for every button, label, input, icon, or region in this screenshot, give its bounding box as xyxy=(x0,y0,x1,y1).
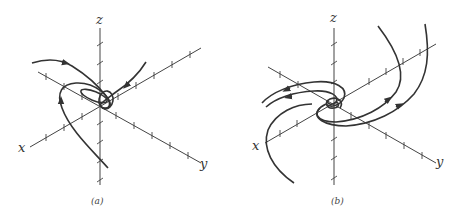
figure: z x y (a) xyxy=(0,0,456,217)
trajectories-b xyxy=(262,24,427,183)
y-axis-label: y xyxy=(435,154,444,169)
trajectories-a xyxy=(32,60,146,168)
caption-b: (b) xyxy=(331,196,344,206)
caption-a: (a) xyxy=(91,196,104,206)
x-axis-label: x xyxy=(252,138,260,153)
x-axis xyxy=(30,48,201,147)
panel-a: z x y (a) xyxy=(18,12,208,206)
y-axis xyxy=(268,67,436,163)
x-axis xyxy=(265,44,436,143)
spiral-loop-outer xyxy=(79,87,108,106)
trajectory-3 xyxy=(266,104,312,183)
x-axis-label: x xyxy=(18,140,26,155)
y-axis-label: y xyxy=(199,156,208,171)
z-axis-label: z xyxy=(329,10,337,25)
y-axis xyxy=(38,72,201,163)
panel-b: z x y (b) xyxy=(252,10,444,206)
z-axis-label: z xyxy=(95,12,103,27)
